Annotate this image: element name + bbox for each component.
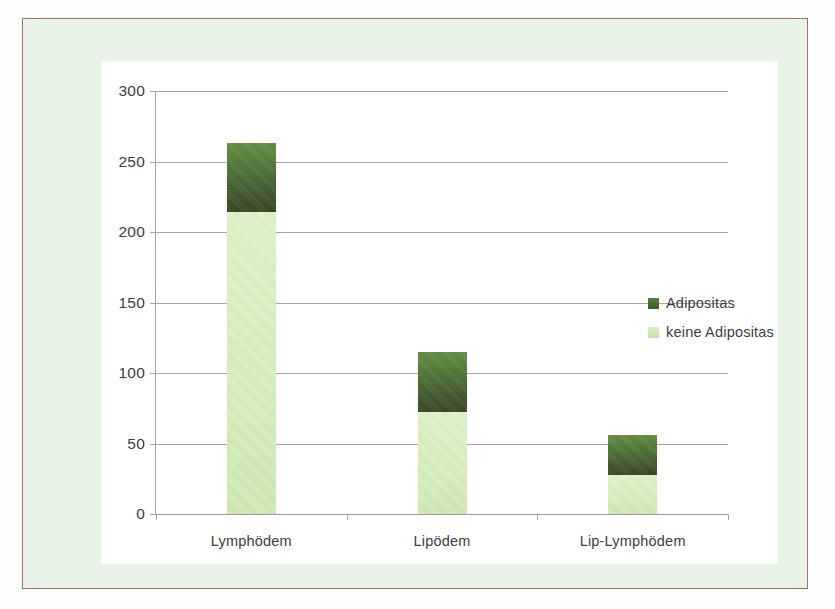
y-tick-label-0: 0 [136,505,145,523]
y-tick-label-100: 100 [119,364,145,382]
legend-item-keine-adipositas[interactable]: keine Adipositas [648,324,774,340]
bar-lip-dem[interactable] [418,91,467,514]
plot-area: 050100150200250300 LymphödemLipödemLip-L… [156,91,728,514]
scanned-page: 050100150200250300 LymphödemLipödemLip-L… [0,0,835,609]
figure-frame: 050100150200250300 LymphödemLipödemLip-L… [22,18,808,589]
bar-segment-keine-adipositas[interactable] [418,412,467,514]
bar-lymph-dem[interactable] [227,91,276,514]
y-tick-mark-150 [150,303,156,304]
y-tick-label-250: 250 [119,153,145,171]
legend-item-adipositas[interactable]: Adipositas [648,295,774,311]
x-axis-end-cap-1 [728,514,729,520]
y-tick-mark-200 [150,232,156,233]
x-axis-end-cap-0 [156,514,157,520]
y-tick-label-150: 150 [119,294,145,312]
legend-swatch-icon-0 [648,298,659,309]
bar-segment-adipositas[interactable] [608,435,657,474]
y-tick-mark-300 [150,91,156,92]
x-axis-separator-2 [537,514,538,520]
x-tick-label-0: Lymphödem [211,533,292,549]
y-tick-mark-250 [150,162,156,163]
y-tick-mark-100 [150,373,156,374]
x-axis-separator-1 [347,514,348,520]
legend-label-1: keine Adipositas [666,324,774,340]
bar-segment-adipositas[interactable] [227,143,276,212]
x-tick-label-2: Lip-Lymphödem [580,533,686,549]
bar-segment-keine-adipositas[interactable] [608,475,657,514]
legend-label-0: Adipositas [666,295,735,311]
chart-legend: Adipositaskeine Adipositas [648,295,774,353]
y-tick-label-200: 200 [119,223,145,241]
y-tick-label-50: 50 [127,435,145,453]
legend-swatch-icon-1 [648,327,659,338]
gridline-0 [156,514,728,515]
y-tick-label-300: 300 [119,82,145,100]
y-tick-mark-50 [150,444,156,445]
x-tick-label-1: Lipödem [413,533,470,549]
bar-segment-adipositas[interactable] [418,352,467,413]
bar-segment-keine-adipositas[interactable] [227,212,276,514]
